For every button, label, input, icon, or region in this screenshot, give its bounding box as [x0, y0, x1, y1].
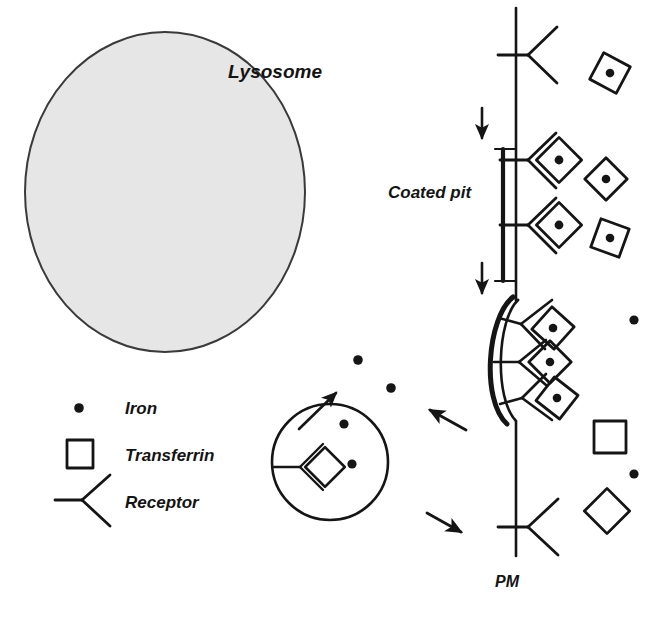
holo-transferrin-1-iron: [604, 67, 616, 79]
apo-transferrin-diamond: [584, 488, 629, 533]
legend-transferrin-icon: [67, 440, 93, 468]
endosome-receptor-arm-lower: [300, 467, 323, 490]
iron-lower-pit: [553, 219, 565, 231]
iron-escape-2: [386, 383, 396, 393]
diagram-canvas: Lysosome PM Coated pit: [0, 0, 654, 620]
iron-escape-1: [353, 355, 363, 365]
receptor-top-arm-lower: [528, 55, 557, 83]
apo-transferrin-square-shape: [594, 421, 626, 453]
receptor-bottom: [498, 499, 558, 555]
receptor-bottom-arm-upper: [528, 499, 558, 527]
holo-transferrin-1: [590, 53, 631, 94]
iron-pit-2: [544, 356, 556, 368]
iron-upper-pit: [553, 154, 565, 166]
iron-pit-1: [547, 322, 559, 334]
legend-item-iron: Iron: [74, 399, 157, 418]
lysosome-label: Lysosome: [228, 61, 322, 82]
coated-pit-invagination-group: [490, 297, 578, 424]
iron-pit-3: [551, 392, 563, 404]
arrow-internalization: [430, 410, 466, 430]
arrow-recycling: [427, 513, 461, 532]
legend-receptor-icon-arm-lower: [82, 500, 110, 526]
pit-complex-2: [494, 340, 571, 385]
receptor-top-arm-upper: [528, 27, 557, 55]
iron-in-endosome-1: [339, 419, 348, 428]
legend-transferrin-label: Transferrin: [125, 446, 214, 465]
iron-in-endosome-2: [347, 459, 356, 468]
legend-iron-icon: [74, 403, 84, 413]
holo-transferrin-3: [591, 219, 629, 257]
legend-item-transferrin: Transferrin: [67, 440, 214, 468]
receptor-bottom-arm-lower: [528, 527, 558, 555]
legend-item-receptor: Receptor: [55, 475, 200, 526]
pit-complex-3-stem: [500, 398, 522, 404]
endosome-group: [272, 355, 396, 520]
apo-transferrin-diamond-shape: [584, 488, 629, 533]
endosome-apo-transferrin-shape: [305, 447, 345, 487]
endosome-apo-transferrin: [305, 447, 345, 487]
legend: Iron Transferrin Receptor: [55, 399, 214, 526]
holo-transferrin-2: [585, 158, 627, 200]
coated-pit-flat-group: Coated pit: [388, 149, 516, 281]
transferrin-cycle-diagram: Lysosome PM Coated pit: [0, 0, 654, 620]
pit-complex-1: [499, 300, 574, 349]
legend-receptor-icon-arm-upper: [82, 475, 110, 500]
endosome-receptor-complex: [274, 444, 345, 490]
legend-iron-label: Iron: [125, 399, 157, 418]
receptor-top: [498, 27, 557, 83]
free-iron-right-1: [629, 315, 638, 324]
legend-receptor-label: Receptor: [125, 493, 200, 512]
lysosome-group: Lysosome: [25, 32, 322, 352]
holo-transferrin-2-iron: [600, 173, 612, 185]
endosome-shape: [272, 404, 388, 520]
coated-pit-label: Coated pit: [388, 183, 472, 202]
apo-transferrin-square: [594, 421, 626, 453]
endosome-receptor-arm-upper: [300, 444, 323, 467]
receptor-lower-pit: [500, 198, 582, 253]
plasma-membrane-label: PM: [495, 573, 520, 590]
receptor-upper-pit: [500, 133, 582, 188]
pit-complex-1-stem: [499, 318, 521, 324]
holo-transferrin-3-iron: [604, 232, 615, 243]
free-iron-right-2: [629, 469, 638, 478]
